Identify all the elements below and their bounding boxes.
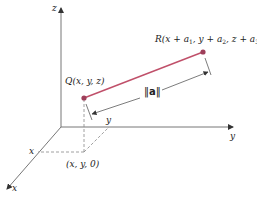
norm-right-bar: ‖: [156, 86, 161, 97]
point-r: [200, 49, 205, 54]
point-q-label: Q(x, y, z): [65, 77, 105, 86]
point-r-label-prefix: R: [155, 34, 162, 44]
y-axis-label: y: [230, 132, 235, 141]
projection-y-mark: y: [106, 116, 111, 125]
point-r-label-part1: (x + a: [162, 34, 189, 44]
point-r-label: R(x + a1, y + a2, z + a3): [155, 35, 257, 45]
x-axis-label: x: [12, 184, 17, 193]
projection-x-mark: x: [29, 147, 34, 156]
x-axis: [7, 127, 61, 189]
norm-symbol: a: [149, 86, 156, 97]
norm-tick-start: [86, 104, 92, 120]
point-q-label-args: (x, y, z): [72, 76, 104, 86]
point-r-label-part2: , y + a: [193, 34, 222, 44]
norm-label: ‖a‖: [144, 87, 161, 97]
vector-diagram: z y x Q(x, y, z) R(x + a1, y + a2, z + a…: [0, 0, 257, 204]
norm-arrow-right: [162, 72, 208, 90]
norm-arrow-left: [92, 98, 140, 114]
z-axis-label: z: [52, 4, 57, 13]
projection-y-dashed: [84, 127, 109, 152]
point-r-sub3: 3: [255, 38, 257, 45]
point-r-label-part3: , z + a: [226, 34, 255, 44]
point-q: [81, 95, 86, 100]
projection-point-label: (x, y, 0): [66, 160, 99, 169]
diagram-canvas: [0, 0, 257, 204]
